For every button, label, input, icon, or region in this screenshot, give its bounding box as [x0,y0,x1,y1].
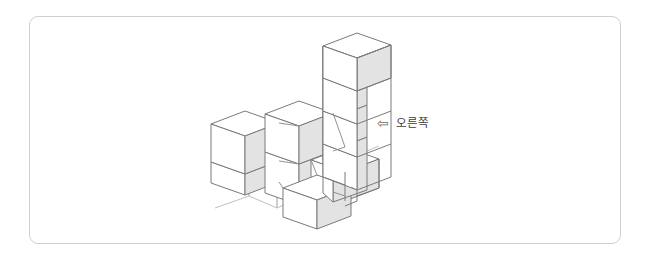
isometric-cube-scene [0,0,649,263]
direction-label-text: 오른쪽 [396,118,430,130]
cube-stack-svg [0,0,649,263]
tower-left-face-panel [323,46,357,190]
direction-label: ⇦ 오른쪽 [377,117,430,131]
page-root: ⇦ 오른쪽 [0,0,649,263]
left-arrow-icon: ⇦ [377,116,389,130]
